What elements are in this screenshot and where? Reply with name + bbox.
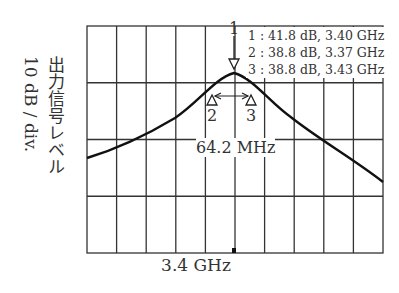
bandwidth-label: 64.2 MHz: [196, 138, 275, 157]
marker-1-label: 1: [229, 19, 239, 38]
x-axis-label: 3.4 GHz: [0, 255, 399, 275]
y-axis-label-title: 出力信号レベル: [44, 56, 66, 242]
marker-2-label: 2: [207, 106, 217, 125]
peak-marker-1: [229, 36, 239, 69]
marker-legend-1: 1 : 41.8 dB, 3.40 GHz: [248, 27, 384, 44]
bandwidth-arrow: [215, 93, 248, 99]
x-axis-center-frequency: 3.4 GHz: [161, 255, 231, 275]
center-tick: [232, 248, 236, 253]
marker-legend-3: 3 : 38.8 dB, 3.43 GHz: [248, 61, 384, 78]
y-axis-label-scale: 10 dB / div.: [20, 56, 42, 242]
y-axis-label: 出力信号レベル 10 dB / div.: [20, 56, 66, 242]
marker-legend: 1 : 41.8 dB, 3.40 GHz 2 : 38.8 dB, 3.37 …: [246, 27, 386, 78]
marker-legend-2: 2 : 38.8 dB, 3.37 GHz: [248, 44, 384, 61]
marker-3-label: 3: [246, 106, 256, 125]
